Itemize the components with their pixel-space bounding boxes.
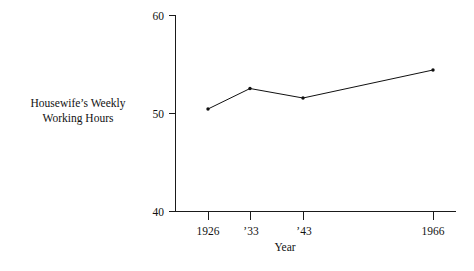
x-tick-label-1966: 1966 [422,225,445,237]
plot-area: 60 50 40 1926 ’33 ’43 1966 [0,0,474,271]
y-tick-label-50: 50 [153,108,165,120]
y-tick-label-60: 60 [153,10,165,22]
data-point [431,68,434,71]
data-point [248,87,251,90]
x-tick-label-33: ’33 [243,225,259,237]
x-axis-label: Year [274,241,295,253]
x-tick-label-1926: 1926 [197,225,220,237]
x-tick-label-43: ’43 [296,225,312,237]
data-series-line [208,70,433,109]
chart-figure: Housewife’s Weekly Working Hours 60 50 4… [0,0,474,271]
data-point [301,96,304,99]
x-axis-label-wrapper: Year [0,241,474,253]
y-tick-label-40: 40 [153,206,165,218]
data-point [206,107,209,110]
